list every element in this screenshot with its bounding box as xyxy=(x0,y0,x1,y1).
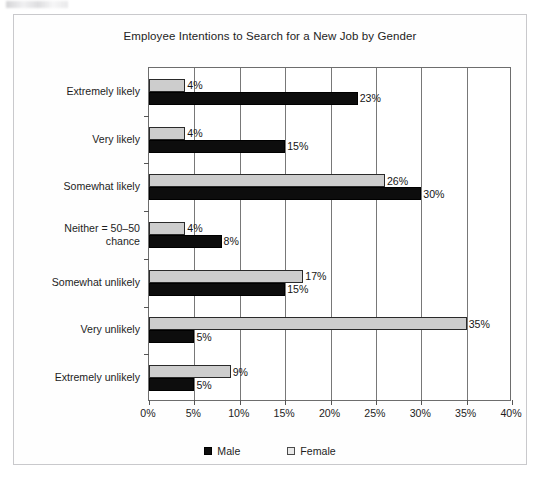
x-axis-tick-label: 10% xyxy=(228,407,249,419)
category-label: Neither = 50–50 chance xyxy=(0,221,140,248)
category-label: Somewhat unlikely xyxy=(0,276,140,290)
category-band: Neither = 50–50 chance4%8% xyxy=(149,211,510,259)
category-band: Somewhat likely26%30% xyxy=(149,163,510,211)
chart-title: Employee Intentions to Search for a New … xyxy=(14,30,526,42)
legend-item-male[interactable]: Male xyxy=(204,445,240,457)
bar-value-label: 15% xyxy=(287,283,308,295)
legend-label: Male xyxy=(217,445,240,457)
x-axis-tick xyxy=(512,400,513,405)
bar-female: 9% xyxy=(149,365,231,378)
bar-male: 15% xyxy=(149,140,285,153)
bar-female: 4% xyxy=(149,79,185,92)
legend-label: Female xyxy=(300,445,335,457)
bar-female: 4% xyxy=(149,222,185,235)
scan-artifact xyxy=(6,1,68,8)
bar-value-label: 5% xyxy=(196,379,211,391)
y-axis-tick xyxy=(144,307,149,308)
category-label: Extremely unlikely xyxy=(0,371,140,385)
category-label: Extremely likely xyxy=(0,85,140,99)
x-axis-tick-label: 30% xyxy=(410,407,431,419)
x-axis-tick-label: 20% xyxy=(319,407,340,419)
bar-value-label: 4% xyxy=(187,79,202,91)
plot-area: Extremely likely4%23%Very likely4%15%Som… xyxy=(148,67,511,401)
bar-value-label: 8% xyxy=(224,235,239,247)
category-band: Very unlikely35%5% xyxy=(149,307,510,355)
bar-value-label: 9% xyxy=(233,366,248,378)
x-axis-tick-label: 25% xyxy=(364,407,385,419)
category-band: Extremely unlikely9%5% xyxy=(149,354,510,402)
y-axis-tick xyxy=(144,354,149,355)
bar-male: 5% xyxy=(149,330,194,343)
legend-swatch-icon xyxy=(204,447,212,455)
chart-legend: MaleFemale xyxy=(14,445,526,457)
bar-value-label: 23% xyxy=(360,92,381,104)
bar-value-label: 17% xyxy=(305,270,326,282)
y-axis-tick xyxy=(144,163,149,164)
bar-value-label: 4% xyxy=(187,222,202,234)
x-axis-tick-label: 15% xyxy=(274,407,295,419)
y-axis-tick xyxy=(144,116,149,117)
category-band: Extremely likely4%23% xyxy=(149,68,510,116)
bar-value-label: 4% xyxy=(187,127,202,139)
bar-female: 4% xyxy=(149,127,185,140)
bar-female: 35% xyxy=(149,317,467,330)
category-band: Very likely4%15% xyxy=(149,116,510,164)
x-axis-tick-label: 40% xyxy=(500,407,521,419)
y-axis-tick xyxy=(144,259,149,260)
category-label: Somewhat likely xyxy=(0,181,140,195)
category-label: Very likely xyxy=(0,133,140,147)
y-axis-tick xyxy=(144,211,149,212)
bar-male: 8% xyxy=(149,235,222,248)
bar-value-label: 5% xyxy=(196,331,211,343)
category-band: Somewhat unlikely17%15% xyxy=(149,259,510,307)
bar-value-label: 35% xyxy=(469,318,490,330)
bar-male: 30% xyxy=(149,187,421,200)
x-axis-tick-label: 5% xyxy=(186,407,201,419)
x-axis-tick-label: 0% xyxy=(140,407,155,419)
bar-male: 5% xyxy=(149,378,194,391)
bar-value-label: 30% xyxy=(423,188,444,200)
legend-swatch-icon xyxy=(287,447,295,455)
bar-value-label: 26% xyxy=(387,175,408,187)
bar-value-label: 15% xyxy=(287,140,308,152)
bar-male: 15% xyxy=(149,283,285,296)
category-label: Very unlikely xyxy=(0,324,140,338)
x-axis-tick-label: 35% xyxy=(455,407,476,419)
bar-female: 26% xyxy=(149,174,385,187)
bar-female: 17% xyxy=(149,270,303,283)
legend-item-female[interactable]: Female xyxy=(287,445,335,457)
chart-container: Employee Intentions to Search for a New … xyxy=(13,14,527,465)
bar-male: 23% xyxy=(149,92,358,105)
